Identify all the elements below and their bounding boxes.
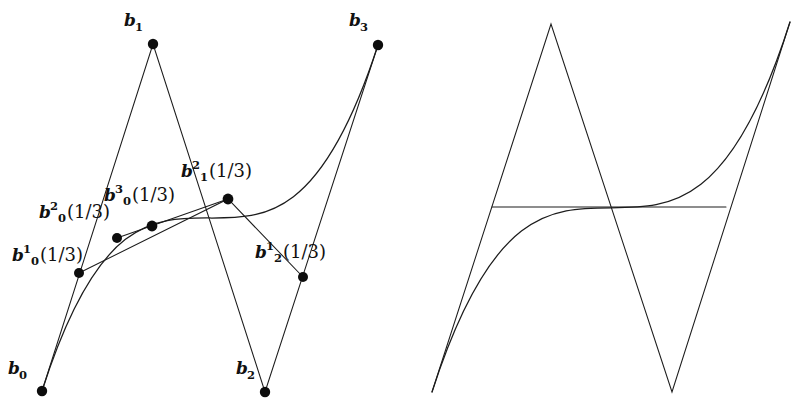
label-b0-2: b20(1/3) — [39, 203, 110, 221]
left-figure-svg — [0, 0, 811, 418]
label-b0-1: b10(1/3) — [12, 246, 83, 264]
left-point-b0 — [37, 386, 47, 396]
label-b2-1: b12(1/3) — [255, 243, 326, 261]
left-point-b2-1 — [298, 272, 308, 282]
label-b0-1-arg: (1/3) — [40, 244, 83, 265]
left-point-b0-1 — [74, 268, 84, 278]
left-point-b0-3 — [147, 221, 158, 232]
label-b2-1-arg: (1/3) — [283, 241, 326, 262]
left-point-b2 — [260, 387, 270, 397]
label-b0-3: b30(1/3) — [104, 186, 175, 204]
figure-root: b0 b1 b2 b3 b10(1/3) b20(1/3) b30(1/3) b… — [0, 0, 811, 418]
left-point-b0-2 — [112, 233, 122, 243]
label-b0-3-arg: (1/3) — [132, 184, 175, 205]
label-b2: b2 — [236, 360, 256, 377]
left-point-b3 — [373, 40, 383, 50]
label-b1-2-arg: (1/3) — [209, 160, 252, 181]
label-b3: b3 — [349, 12, 369, 29]
label-b0: b0 — [8, 360, 28, 377]
left-point-b1-2 — [223, 194, 234, 205]
left-point-b1 — [148, 39, 158, 49]
label-b1-2: b21(1/3) — [181, 162, 252, 180]
label-b1: b1 — [124, 12, 144, 29]
